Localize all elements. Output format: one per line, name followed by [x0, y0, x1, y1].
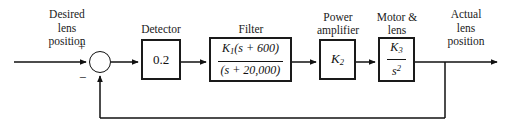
motor-lens-denominator-exponent: 2 — [397, 63, 401, 73]
motor-lens-numerator: K3 — [387, 40, 405, 60]
motor-lens-denominator: s2 — [387, 60, 405, 79]
power-amplifier-block[interactable]: K2 — [319, 39, 356, 80]
motor-lens-gain-subscript: 3 — [398, 45, 402, 55]
filter-transfer-function: K1(s + 600) (s + 20,000) — [218, 41, 284, 77]
filter-gain-symbol: K — [222, 41, 230, 55]
power-amplifier-gain-symbol: K — [331, 51, 340, 66]
detector-block[interactable]: 0.2 — [141, 39, 181, 80]
motor-lens-transfer-function: K3 s2 — [387, 40, 405, 79]
detector-gain-text: 0.2 — [153, 52, 169, 68]
filter-denominator: (s + 20,000) — [218, 62, 284, 78]
power-amplifier-gain: K2 — [331, 51, 344, 67]
power-amplifier-block-label: Power amplifier — [307, 11, 369, 36]
input-signal-label: Desired lens position — [28, 8, 106, 49]
summing-junction-minus-sign: − — [79, 73, 86, 83]
filter-numerator-rest: (s + 600) — [234, 41, 279, 55]
motor-lens-block[interactable]: K3 s2 — [378, 37, 415, 82]
detector-block-label: Detector — [131, 23, 191, 36]
summing-junction — [89, 51, 111, 73]
filter-block-label: Filter — [220, 23, 282, 36]
block-diagram-canvas: + − Desired lens position Actual lens po… — [0, 0, 507, 133]
power-amplifier-gain-subscript: 2 — [340, 58, 344, 68]
filter-block[interactable]: K1(s + 600) (s + 20,000) — [209, 37, 292, 82]
filter-numerator: K1(s + 600) — [218, 41, 284, 61]
motor-lens-block-label: Motor & lens — [366, 11, 428, 36]
output-signal-label: Actual lens position — [434, 8, 498, 49]
